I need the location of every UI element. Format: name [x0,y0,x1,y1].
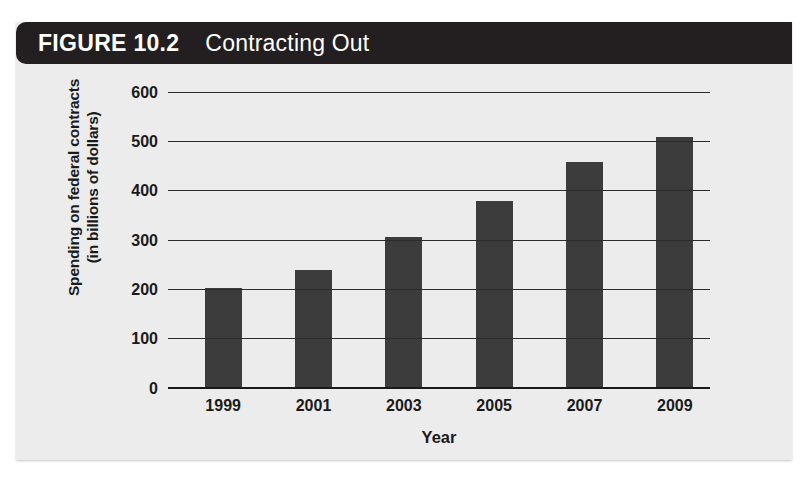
x-tick-label: 1999 [193,397,253,415]
x-tick-label: 2007 [555,397,615,415]
y-tick-label: 0 [149,380,158,398]
bar [566,162,603,387]
x-tick-label: 2003 [374,397,434,415]
bar [656,137,693,387]
figure-root: FIGURE 10.2 Contracting Out Spending on … [0,0,808,480]
y-tick-label: 500 [131,133,158,151]
x-axis-title: Year [168,428,710,447]
bar [476,201,513,387]
gridline: 500 [168,141,710,142]
plot-region: 0100200300400500600199920012003200520072… [168,92,710,387]
y-axis-title-line2: (in billions of dollars) [83,72,102,302]
y-tick-label: 600 [131,84,158,102]
bar [385,237,422,387]
figure-title: Contracting Out [205,30,369,57]
y-tick-label: 100 [131,330,158,348]
gridline: 300 [168,240,710,241]
gridline: 600 [168,92,710,93]
x-tick-label: 2005 [464,397,524,415]
y-tick-label: 200 [131,281,158,299]
figure-number-label: FIGURE 10.2 [38,30,179,57]
y-tick-label: 400 [131,182,158,200]
y-axis-title: Spending on federal contracts (in billio… [64,72,103,302]
x-tick-label: 2009 [645,397,705,415]
x-tick-label: 2001 [284,397,344,415]
chart-area: Spending on federal contracts (in billio… [16,64,792,460]
x-axis-line: 0 [168,387,710,389]
gridline: 100 [168,338,710,339]
figure-title-bar: FIGURE 10.2 Contracting Out [16,22,792,64]
gridline: 400 [168,190,710,191]
y-tick-label: 300 [131,232,158,250]
gridline: 200 [168,289,710,290]
y-axis-title-line1: Spending on federal contracts [65,79,82,296]
